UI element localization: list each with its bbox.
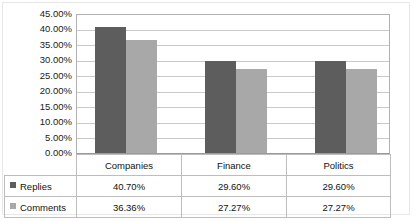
table-row: Replies 40.70% 29.60% 29.60% <box>5 176 391 197</box>
y-axis-tick-25: 25.00% <box>0 71 72 81</box>
legend-item-replies: Replies <box>5 176 77 197</box>
table-header-companies: Companies <box>77 155 182 176</box>
y-axis-tick-45: 45.00% <box>0 9 72 19</box>
table-corner-blank <box>5 155 77 176</box>
legend-item-comments: Comments <box>5 197 77 218</box>
plot-area <box>76 14 390 154</box>
cell-comments-companies: 36.36% <box>77 197 182 218</box>
y-axis-tick-20: 20.00% <box>0 86 72 96</box>
y-axis-tick-40: 40.00% <box>0 24 72 34</box>
table-row: Comments 36.36% 27.27% 27.27% <box>5 197 391 218</box>
cell-comments-finance: 27.27% <box>182 197 287 218</box>
legend-swatch-replies-icon <box>10 182 16 188</box>
bar-replies-finance <box>205 61 236 153</box>
cell-replies-finance: 29.60% <box>182 176 287 197</box>
bar-comments-companies <box>126 40 157 153</box>
bar-replies-politics <box>315 61 346 153</box>
table-header-row: Companies Finance Politics <box>5 155 391 176</box>
table-header-finance: Finance <box>182 155 287 176</box>
cell-replies-politics: 29.60% <box>287 176 391 197</box>
y-axis-tick-30: 30.00% <box>0 55 72 65</box>
y-axis-tick-15: 15.00% <box>0 102 72 112</box>
cell-replies-companies: 40.70% <box>77 176 182 197</box>
y-axis-tick-5: 5.00% <box>0 133 72 143</box>
bar-chart-figure: 45.00% 40.00% 35.00% 30.00% 25.00% 20.00… <box>0 0 416 221</box>
bar-replies-companies <box>95 27 126 153</box>
legend-swatch-comments-icon <box>10 203 16 209</box>
data-table: Companies Finance Politics Replies 40.70… <box>4 154 391 218</box>
legend-label-replies: Replies <box>20 181 52 192</box>
legend-label-comments: Comments <box>20 202 66 213</box>
table-header-politics: Politics <box>287 155 391 176</box>
bar-comments-politics <box>346 69 377 154</box>
bar-comments-finance <box>236 69 267 154</box>
cell-comments-politics: 27.27% <box>287 197 391 218</box>
y-axis-tick-10: 10.00% <box>0 117 72 127</box>
y-axis-tick-35: 35.00% <box>0 40 72 50</box>
